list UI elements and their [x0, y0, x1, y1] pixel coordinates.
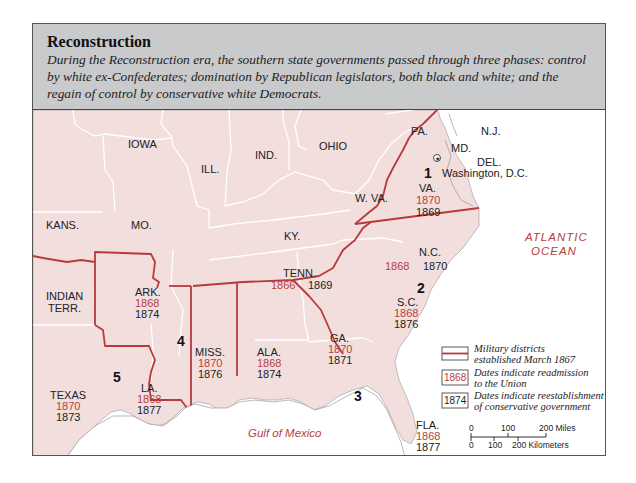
nc-readmission-date: 1868 [385, 260, 409, 272]
district-number-4: 4 [177, 333, 185, 349]
state-label-pa: PA. [411, 125, 428, 137]
legend-readmission-line2: to the Union [474, 378, 527, 389]
state-label-indian-terr-1: INDIAN [46, 290, 83, 302]
figure-title: Reconstruction [47, 33, 605, 51]
state-label-iowa: IOWA [128, 138, 158, 150]
state-label-nj: N.J. [481, 125, 501, 137]
district-number-5: 5 [113, 369, 121, 385]
map-legend: Military districts established March 186… [442, 343, 605, 412]
svg-text:200 Kilometers: 200 Kilometers [512, 440, 569, 450]
va-conservative-date: 1869 [416, 206, 440, 218]
svg-text:0: 0 [469, 440, 474, 450]
map-figure: Reconstruction During the Reconstruction… [32, 23, 606, 456]
state-label-mo: MO. [131, 219, 152, 231]
va-readmission-date: 1870 [416, 194, 440, 206]
svg-text:100: 100 [488, 440, 502, 450]
district-number-2: 2 [417, 280, 425, 296]
figure-header: Reconstruction During the Reconstruction… [33, 24, 605, 110]
figure-caption: During the Reconstruction era, the south… [47, 51, 592, 102]
ala-conservative-date: 1874 [257, 368, 281, 380]
tenn-readmission-date: 1866 [271, 279, 295, 291]
svg-text:0: 0 [469, 423, 474, 433]
ark-conservative-date: 1874 [135, 308, 159, 320]
state-label-tenn: TENN. [283, 267, 316, 279]
atlantic-ocean-label-1: ATLANTIC [524, 231, 588, 243]
state-label-ill: ILL. [201, 163, 219, 175]
reconstruction-map: IOWA ILL. IND. OHIO PA. N.J. MD. DEL. KA… [33, 110, 606, 456]
scale-bar: 0 100 200 Miles 0 100 200 Kilometers [469, 423, 575, 450]
sc-conservative-date: 1876 [394, 318, 418, 330]
fla-conservative-date: 1877 [416, 441, 440, 453]
miss-conservative-date: 1876 [198, 368, 222, 380]
atlantic-ocean-label-2: OCEAN [531, 245, 577, 257]
district-number-1: 1 [424, 165, 432, 181]
state-label-md: MD. [451, 142, 471, 154]
legend-conservative-line2: of conservative government [474, 401, 591, 412]
svg-text:200 Miles: 200 Miles [539, 423, 575, 433]
legend-districts-line1: Military districts [473, 343, 545, 354]
legend-readmission-line1: Dates indicate readmission [473, 367, 589, 378]
ga-conservative-date: 1871 [328, 354, 352, 366]
tenn-conservative-date: 1869 [308, 279, 332, 291]
state-label-wva: W. VA. [355, 192, 388, 204]
state-label-kans: KANS. [46, 219, 79, 231]
legend-readmission-sample: 1868 [444, 372, 467, 383]
state-label-indian-terr-2: TERR. [48, 302, 81, 314]
state-label-nc: N.C. [419, 246, 441, 258]
legend-conservative-line1: Dates indicate reestablishment [473, 390, 605, 401]
state-label-ind: IND. [255, 149, 277, 161]
state-label-ky: KY. [284, 230, 300, 242]
district-number-3: 3 [354, 388, 362, 404]
nc-conservative-date: 1870 [423, 260, 447, 272]
la-conservative-date: 1877 [137, 404, 161, 416]
legend-conservative-sample: 1874 [444, 395, 467, 406]
svg-text:★: ★ [435, 156, 440, 162]
map-canvas: IOWA ILL. IND. OHIO PA. N.J. MD. DEL. KA… [33, 110, 606, 456]
state-label-va: VA. [419, 182, 436, 194]
gulf-of-mexico-label: Gulf of Mexico [248, 427, 322, 439]
texas-conservative-date: 1873 [56, 411, 80, 423]
city-label-washington: Washington, D.C. [442, 167, 528, 179]
state-label-ohio: OHIO [319, 140, 348, 152]
svg-text:100: 100 [501, 423, 515, 433]
legend-districts-line2: established March 1867 [474, 354, 576, 365]
